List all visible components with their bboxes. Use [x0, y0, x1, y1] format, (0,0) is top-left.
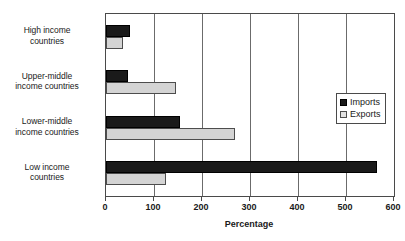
x-tick-label: 300: [229, 202, 269, 212]
x-tick-label: 500: [325, 202, 365, 212]
category-label-line: countries: [0, 36, 96, 47]
category-label-line: countries: [0, 172, 96, 183]
imports-swatch-icon: [340, 99, 347, 106]
bar-chart: High incomecountriesUpper-middleincome c…: [0, 0, 405, 241]
category-label-line: Lower-middle: [0, 116, 96, 127]
x-tick: [297, 196, 298, 201]
x-tick-label: 600: [373, 202, 405, 212]
bar-imports-2: [106, 116, 180, 128]
x-tick: [153, 196, 154, 201]
x-tick: [201, 196, 202, 201]
category-label-line: Low income: [0, 162, 96, 173]
category-label-line: Upper-middle: [0, 71, 96, 82]
x-tick-label: 400: [277, 202, 317, 212]
bar-exports-0: [106, 37, 123, 49]
bar-exports-1: [106, 82, 176, 94]
bar-imports-1: [106, 70, 128, 82]
legend-item-imports: Imports: [340, 96, 381, 108]
x-tick-label: 200: [181, 202, 221, 212]
exports-swatch-icon: [340, 111, 347, 118]
category-label-3: Low incomecountries: [0, 162, 96, 183]
bar-imports-3: [106, 161, 377, 173]
chart-legend: Imports Exports: [336, 93, 386, 124]
x-tick: [345, 196, 346, 201]
x-tick: [249, 196, 250, 201]
category-label-line: income countries: [0, 127, 96, 138]
category-axis-labels: High incomecountriesUpper-middleincome c…: [0, 13, 100, 195]
x-tick-label: 100: [133, 202, 173, 212]
x-tick: [393, 196, 394, 201]
bar-exports-2: [106, 128, 235, 140]
category-label-1: Upper-middleincome countries: [0, 71, 96, 92]
x-tick: [105, 196, 106, 201]
category-label-2: Lower-middleincome countries: [0, 116, 96, 137]
legend-label-imports: Imports: [350, 97, 380, 108]
bar-exports-3: [106, 173, 166, 185]
legend-item-exports: Exports: [340, 108, 381, 120]
category-label-line: High income: [0, 25, 96, 36]
legend-label-exports: Exports: [350, 109, 381, 120]
bar-imports-0: [106, 25, 130, 37]
category-label-line: income countries: [0, 81, 96, 92]
x-tick-label: 0: [85, 202, 125, 212]
x-axis-title: Percentage: [105, 219, 393, 229]
category-label-0: High incomecountries: [0, 25, 96, 46]
